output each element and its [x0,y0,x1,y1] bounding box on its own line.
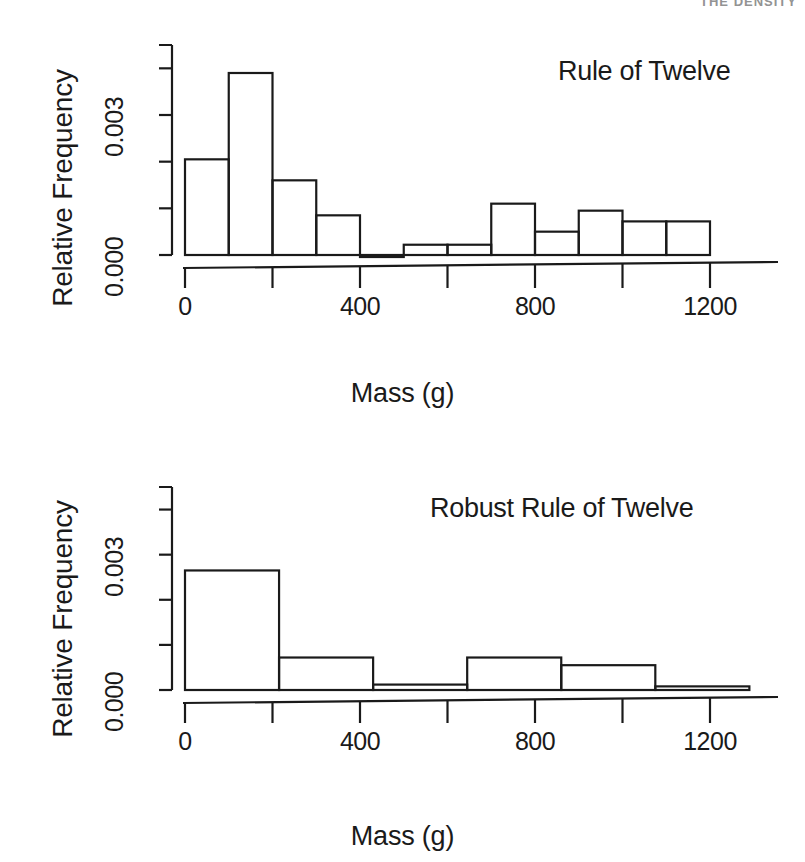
figure-page: THE DENSITY Relative Frequency Rule of T… [0,0,805,862]
histogram-bar [623,221,667,255]
histogram-bottom [0,431,805,862]
histogram-bar [467,658,561,690]
histogram-bar [279,658,373,690]
x-tick-label: 800 [515,292,555,321]
panel-robust-rule-of-twelve: Relative Frequency Robust Rule of Twelve… [0,431,805,862]
histogram-bar [316,215,360,255]
x-tick-label: 400 [340,727,380,756]
x-axis-title-top: Mass (g) [0,378,805,409]
histogram-bar [185,159,229,255]
histogram-bar [666,221,710,255]
histogram-bar [229,73,273,255]
histogram-bar [491,204,535,255]
x-tick-label: 1200 [683,292,737,321]
x-tick-label: 0 [178,292,191,321]
histogram-bar [273,180,317,255]
x-tick-label: 0 [178,727,191,756]
y-tick-label: 0.003 [100,537,129,597]
histogram-bar [448,245,492,255]
x-tick-label: 400 [340,292,380,321]
histogram-bar [561,665,655,690]
histogram-bar [535,232,579,255]
histogram-bar [579,211,623,255]
x-tick-label: 800 [515,727,555,756]
y-tick-label: 0.000 [100,237,129,297]
histogram-bar [404,245,448,255]
x-axis-title-bottom: Mass (g) [0,821,805,852]
histogram-bar [185,570,279,690]
y-tick-label: 0.000 [100,672,129,732]
histogram-top [0,0,805,431]
panel-rule-of-twelve: Relative Frequency Rule of Twelve Mass (… [0,0,805,431]
y-tick-label: 0.003 [100,97,129,157]
x-tick-label: 1200 [683,727,737,756]
